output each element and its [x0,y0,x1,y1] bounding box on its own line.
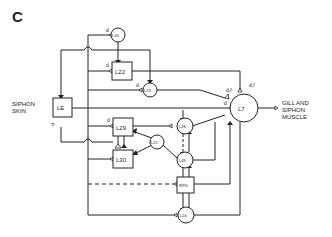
gill-label-1: GILL AND [282,100,309,106]
siphon-skin-label-1: SIPHON [12,101,35,107]
df-label: d,f [226,87,232,93]
neuron-le-label: LE [57,105,64,111]
d-label: d [106,27,109,33]
circuit-diagram: C SIPHON SKIN ? GILL AND SIPHON MUSCLE d… [0,0,332,237]
neuron-l49-label: L49 [179,158,186,163]
neuron-rpg-label: RPG [179,183,188,188]
question-mark: ? [51,122,55,128]
gill-label-3: MUSCLE [282,114,307,120]
df-label: d,f [249,82,255,88]
neuron-l16-label: L16 [112,33,119,38]
d-label: d [224,100,227,106]
d-label: d [107,117,110,123]
neuron-l23-label: L23 [144,88,151,93]
d-label: d [136,82,139,88]
neuron-l21-label: L21 [151,140,158,145]
neuron-l29-label: L29 [116,125,127,131]
neuron-l22-label: L22 [115,69,126,75]
neuron-l30-label: L30 [116,157,127,163]
d-label: d [106,62,109,68]
gill-label-2: SIPHON [282,107,305,113]
siphon-skin-label-2: SKIN [12,108,26,114]
panel-label: C [12,8,23,25]
neuron-l24-label: L24 [180,213,187,218]
neuron-l28-label: L28 [179,124,186,129]
neuron-l7-label: L7 [238,106,245,112]
